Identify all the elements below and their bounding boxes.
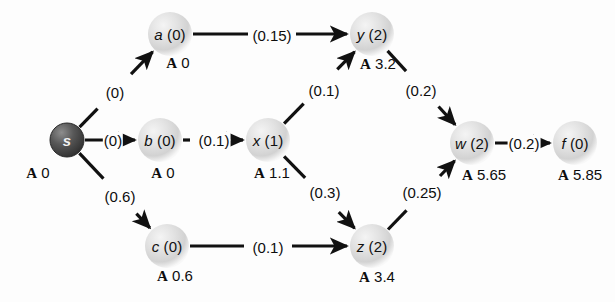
graph-diagram: (0)(0)(0.6)(0.15)(0.1)(0.1)(0.3)(0.1)(0.… xyxy=(0,0,615,302)
edge-y-w xyxy=(388,51,456,125)
node-circle-s[interactable] xyxy=(50,123,84,157)
edge-x-y xyxy=(284,52,354,124)
edge-z-w xyxy=(388,161,455,230)
node-circle-a[interactable] xyxy=(148,12,192,56)
node-circle-w[interactable] xyxy=(450,121,494,165)
node-circle-z[interactable] xyxy=(350,224,394,268)
node-circle-c[interactable] xyxy=(145,224,189,268)
node-circle-b[interactable] xyxy=(138,118,182,162)
node-circle-x[interactable] xyxy=(246,118,290,162)
edge-x-z xyxy=(284,156,354,228)
edge-s-c xyxy=(79,153,149,228)
graph-canvas xyxy=(0,0,615,302)
edge-s-a xyxy=(80,52,153,127)
node-circle-y[interactable] xyxy=(350,12,394,56)
node-circle-f[interactable] xyxy=(553,121,597,165)
